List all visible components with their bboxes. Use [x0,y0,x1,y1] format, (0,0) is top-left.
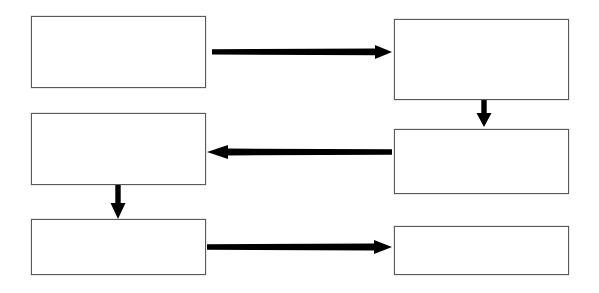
node-top-left[interactable] [31,16,206,88]
node-bottom-left[interactable] [31,219,206,275]
arrow-bottom-left-to-bottom-right [207,240,392,254]
node-middle-left-label [32,114,205,184]
node-top-left-label [32,17,205,87]
node-bottom-right[interactable] [394,226,569,275]
node-middle-right[interactable] [394,129,569,194]
arrow-top-right-to-middle-right [477,100,492,127]
node-bottom-right-label [395,227,568,274]
node-top-right-label [395,20,568,99]
node-top-right[interactable] [394,19,569,100]
arrow-middle-left-to-bottom-left [111,185,126,219]
node-bottom-left-label [32,220,205,274]
arrow-top-left-to-top-right [212,45,392,59]
arrow-middle-right-to-middle-left [207,145,392,159]
flowchart-diagram [0,0,599,293]
node-middle-right-label [395,130,568,193]
node-middle-left[interactable] [31,113,206,185]
